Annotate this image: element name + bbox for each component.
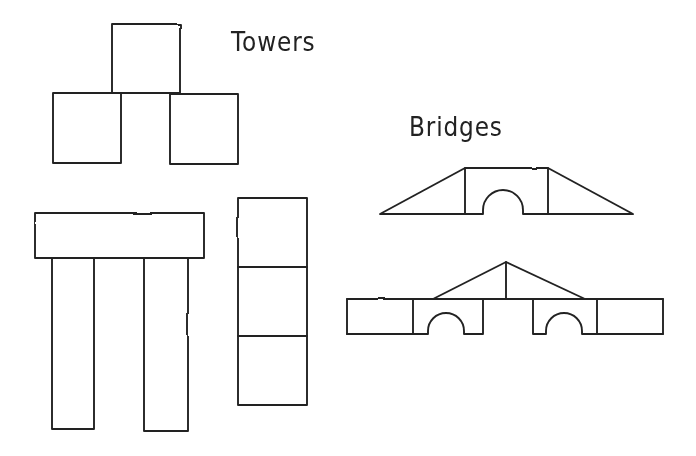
- stack-outline: [238, 198, 307, 405]
- table-left-pillar-block: [52, 258, 94, 429]
- block-structures-drawing: [0, 0, 696, 456]
- bridges-section-label: Bridges: [409, 113, 503, 140]
- double-bridge-gable: [433, 262, 585, 299]
- double-bridge-bottom-right: [533, 299, 663, 334]
- arch-bridge-outline: [380, 168, 633, 214]
- tower-base-left-block: [53, 93, 121, 163]
- table-beam-block: [35, 213, 204, 258]
- double-bridge-bottom-left: [347, 299, 483, 334]
- block-building-illustration: Towers Bridges: [0, 0, 696, 456]
- table-right-pillar-block: [144, 258, 188, 431]
- tower-top-block: [112, 24, 180, 93]
- towers-section-label: Towers: [231, 28, 316, 55]
- tower-base-right-block: [170, 94, 238, 164]
